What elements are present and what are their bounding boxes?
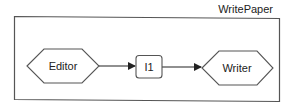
node-editor-label: Editor [49,60,78,72]
container-label: WritePaper [218,3,273,15]
node-i1[interactable]: I1 [136,56,162,79]
diagram-canvas: WritePaper Editor I1 Writer [0,0,296,108]
node-writer[interactable]: Writer [202,51,273,85]
node-editor[interactable]: Editor [27,49,99,83]
node-writer-label: Writer [222,62,251,74]
node-i1-label: I1 [144,61,153,73]
